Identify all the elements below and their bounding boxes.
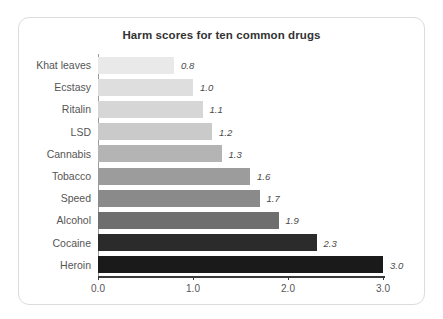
bar-rect xyxy=(98,256,383,273)
bar-rect xyxy=(98,101,203,118)
bar-value-label: 1.3 xyxy=(229,148,242,159)
bar-rect xyxy=(98,234,317,251)
x-tick-label: 0.0 xyxy=(91,283,105,294)
bar-value-label: 1.7 xyxy=(267,193,280,204)
bar-row: LSD1.2 xyxy=(19,121,424,143)
bar-category-label: Khat leaves xyxy=(19,59,91,71)
bar-rect xyxy=(98,168,250,185)
bar-category-label: Alcohol xyxy=(19,214,91,226)
bar-row: Cocaine2.3 xyxy=(19,232,424,254)
chart-card: Harm scores for ten common drugs Khat le… xyxy=(18,17,425,305)
bar-row: Heroin3.0 xyxy=(19,254,424,276)
bar-row: Khat leaves0.8 xyxy=(19,54,424,76)
x-tick-mark xyxy=(98,276,99,280)
bar-row: Ecstasy1.0 xyxy=(19,76,424,98)
x-tick-mark xyxy=(193,276,194,280)
plot-area: Khat leaves0.8Ecstasy1.0Ritalin1.1LSD1.2… xyxy=(19,18,424,304)
bar-value-label: 1.0 xyxy=(200,82,213,93)
x-tick-label: 3.0 xyxy=(376,283,390,294)
bar-category-label: Tobacco xyxy=(19,170,91,182)
x-tick-mark xyxy=(288,276,289,280)
bar-value-label: 1.9 xyxy=(286,215,299,226)
bar-row: Alcohol1.9 xyxy=(19,209,424,231)
bar-value-label: 2.3 xyxy=(324,237,337,248)
bar-rect xyxy=(98,190,260,207)
bar-rect xyxy=(98,123,212,140)
bar-category-label: Cannabis xyxy=(19,148,91,160)
bar-value-label: 1.2 xyxy=(219,126,232,137)
bar-row: Cannabis1.3 xyxy=(19,143,424,165)
bar-value-label: 1.6 xyxy=(257,171,270,182)
bar-rect xyxy=(98,212,279,229)
bar-row: Speed1.7 xyxy=(19,187,424,209)
bar-rect xyxy=(98,145,222,162)
bar-rect xyxy=(98,79,193,96)
bar-row: Tobacco1.6 xyxy=(19,165,424,187)
bar-value-label: 1.1 xyxy=(210,104,223,115)
bar-category-label: Cocaine xyxy=(19,237,91,249)
x-axis-line xyxy=(98,276,385,278)
bar-category-label: Ecstasy xyxy=(19,81,91,93)
bar-row: Ritalin1.1 xyxy=(19,98,424,120)
bar-category-label: Heroin xyxy=(19,259,91,271)
bar-value-label: 3.0 xyxy=(390,259,403,270)
bar-rect xyxy=(98,57,174,74)
bar-value-label: 0.8 xyxy=(181,60,194,71)
bar-category-label: Speed xyxy=(19,192,91,204)
x-tick-label: 1.0 xyxy=(186,283,200,294)
bar-category-label: LSD xyxy=(19,126,91,138)
x-tick-label: 2.0 xyxy=(281,283,295,294)
bar-category-label: Ritalin xyxy=(19,103,91,115)
x-tick-mark xyxy=(383,276,384,280)
